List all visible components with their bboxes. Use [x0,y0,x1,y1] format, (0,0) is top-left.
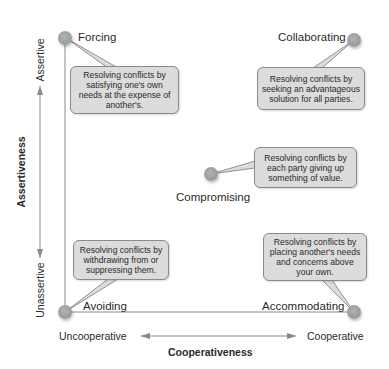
y-axis-low-label: Unassertive [35,262,46,317]
compromising-callout: Resolving conflicts by each party giving… [254,147,357,188]
avoiding-callout: Resolving conflicts by withdrawing from … [73,240,169,280]
accommodating-callout: Resolving conflicts by placing another's… [263,233,367,281]
avoiding-label: Avoiding [83,301,127,313]
conflict-styles-diagram: Forcing Resolving conflicts by satisfyin… [0,0,389,369]
y-axis-high-label: Assertive [35,38,46,81]
compromising-label: Compromising [176,192,250,204]
forcing-node [58,31,72,45]
collaborating-callout: Resolving conflicts by seeking an advant… [257,67,365,110]
y-axis-title: Assertiveness [16,136,27,207]
forcing-callout: Resolving conflicts by satisfying one's … [70,66,179,114]
accommodating-label: Accommodating [262,301,344,313]
avoiding-node [58,305,72,319]
forcing-label: Forcing [78,32,116,44]
x-axis-high-label: Cooperative [307,331,364,342]
accommodating-node [347,305,361,319]
compromising-node [204,167,218,181]
collaborating-label: Collaborating [278,32,346,44]
x-axis-low-label: Uncooperative [59,331,127,342]
x-axis-title: Cooperativeness [168,347,253,358]
collaborating-node [347,33,361,47]
